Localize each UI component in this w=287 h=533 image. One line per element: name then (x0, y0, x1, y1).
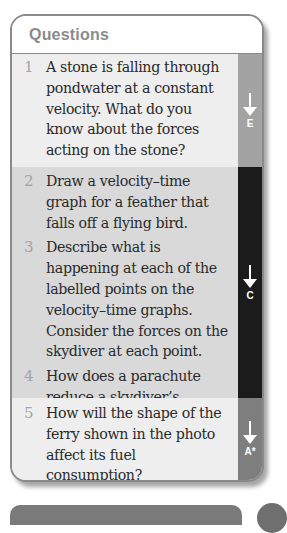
question-number: 5 (24, 403, 46, 482)
bottom-circle (257, 503, 287, 533)
band-grade-c: 2 Draw a velocity–time graph for a feath… (12, 167, 262, 398)
bottom-bar (10, 505, 242, 525)
band-content: 5 How will the shape of the ferry shown … (12, 398, 238, 480)
grade-strip-a-star: A* (238, 398, 262, 480)
down-arrow-icon (243, 421, 257, 445)
question-item: 2 Draw a velocity–time graph for a feath… (24, 167, 232, 236)
down-arrow-icon (243, 265, 257, 289)
question-item: 3 Describe what is happening at each of … (24, 236, 232, 365)
down-arrow-icon (243, 93, 257, 117)
band-content: 1 A stone is falling through pondwater a… (12, 54, 238, 167)
band-grade-e: 1 A stone is falling through pondwater a… (12, 54, 262, 167)
grade-label: E (247, 118, 254, 129)
question-text: Describe what is happening at each of th… (46, 237, 232, 362)
grade-label: A* (244, 446, 255, 457)
question-number: 2 (24, 171, 46, 233)
question-number: 3 (24, 237, 46, 362)
panel-header: Questions (12, 16, 262, 54)
panel-title: Questions (29, 26, 109, 44)
question-item: 1 A stone is falling through pondwater a… (24, 54, 232, 164)
question-text: A stone is falling through pondwater at … (46, 57, 232, 161)
question-number: 1 (24, 57, 46, 161)
grade-strip-e: E (238, 54, 262, 167)
grade-label: C (246, 290, 253, 301)
question-item: 5 How will the shape of the ferry shown … (24, 398, 232, 482)
question-text: Draw a velocity–time graph for a feather… (46, 171, 232, 233)
questions-panel: Questions 1 A stone is falling through p… (10, 14, 264, 482)
band-content: 2 Draw a velocity–time graph for a feath… (12, 167, 238, 398)
question-text: How will the shape of the ferry shown in… (46, 403, 232, 482)
grade-strip-c: C (238, 167, 262, 398)
band-grade-a-star: 5 How will the shape of the ferry shown … (12, 398, 262, 480)
